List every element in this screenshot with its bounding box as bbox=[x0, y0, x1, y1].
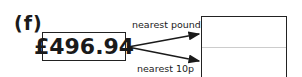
arrow-nearest-pound bbox=[128, 34, 199, 47]
arrow-label-nearest-pound: nearest pound bbox=[132, 19, 201, 30]
arrow-label-nearest-10p: nearest 10p bbox=[137, 63, 194, 74]
answer-field-nearest-pound[interactable] bbox=[202, 17, 286, 47]
answer-field-nearest-10p[interactable] bbox=[202, 48, 286, 77]
arrow-nearest-10p bbox=[128, 47, 199, 61]
answer-box bbox=[201, 16, 287, 77]
